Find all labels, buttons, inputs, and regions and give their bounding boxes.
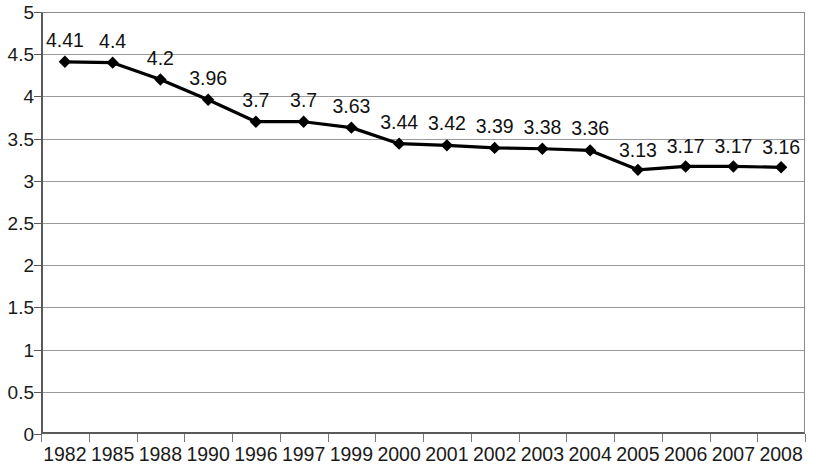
x-axis-tick-mark	[423, 434, 424, 442]
data-point-value-label: 3.17	[714, 137, 752, 157]
data-point-value-label: 4.41	[46, 30, 84, 50]
x-axis-tick-mark	[184, 434, 185, 442]
x-axis-category-label: 2003	[521, 445, 564, 465]
x-axis-tick-mark	[710, 434, 711, 442]
y-axis-tick-label: 0.5	[8, 382, 34, 401]
x-axis-tick-mark	[280, 434, 281, 442]
x-axis-category-label: 1985	[91, 445, 134, 465]
data-point-value-label: 3.42	[428, 114, 466, 134]
data-point-value-label: 3.96	[189, 68, 227, 88]
data-point-value-label: 3.63	[332, 96, 370, 116]
x-axis-tick-mark	[757, 434, 758, 442]
data-point-value-label: 3.38	[523, 117, 561, 137]
x-axis-tick-mark	[89, 434, 90, 442]
y-axis-tick-label: 0	[23, 425, 34, 444]
data-point-value-label: 4.2	[147, 48, 174, 68]
y-axis-tick-label: 1	[23, 340, 34, 359]
y-axis: 00.511.522.533.544.55	[0, 12, 34, 434]
data-point-value-label: 3.44	[380, 112, 418, 132]
y-axis-tick-mark	[34, 265, 41, 266]
x-axis-tick-mark	[614, 434, 615, 442]
data-point-value-label: 4.4	[99, 31, 126, 51]
plot-area	[41, 12, 805, 434]
y-axis-tick-mark	[34, 434, 41, 435]
x-axis-tick-mark	[375, 434, 376, 442]
data-point-value-label: 3.39	[476, 116, 514, 136]
y-axis-tick-label: 3.5	[8, 129, 34, 148]
x-axis-category-label: 1997	[282, 445, 325, 465]
y-axis-tick-mark	[34, 350, 41, 351]
y-axis-tick-label: 3	[23, 171, 34, 190]
x-axis-tick-mark	[328, 434, 329, 442]
y-axis-tick-mark	[34, 181, 41, 182]
data-point-value-label: 3.7	[290, 90, 317, 110]
x-axis-tick-mark	[519, 434, 520, 442]
y-axis-tick-mark	[34, 307, 41, 308]
x-axis-category-label: 1990	[186, 445, 229, 465]
x-axis-category-label: 2001	[425, 445, 468, 465]
data-point-value-label: 3.17	[667, 137, 705, 157]
y-axis-tick-label: 2.5	[8, 214, 34, 233]
gridline	[43, 96, 804, 97]
data-point-value-label: 3.16	[762, 138, 800, 158]
x-axis-category-label: 2007	[712, 445, 755, 465]
data-point-value-label: 3.13	[619, 140, 657, 160]
x-axis-tick-mark	[471, 434, 472, 442]
x-axis-category-label: 2006	[664, 445, 707, 465]
y-axis-tick-mark	[34, 96, 41, 97]
x-axis-category-label: 2002	[473, 445, 516, 465]
y-axis-tick-label: 5	[23, 3, 34, 22]
y-axis-tick-mark	[34, 139, 41, 140]
x-axis-category-label: 2005	[616, 445, 659, 465]
y-axis-tick-mark	[34, 54, 41, 55]
x-axis-category-label: 1996	[234, 445, 277, 465]
x-axis-category-label: 1982	[43, 445, 86, 465]
y-axis-tick-label: 4.5	[8, 45, 34, 64]
y-axis-tick-label: 1.5	[8, 298, 34, 317]
y-axis-tick-label: 2	[23, 256, 34, 275]
gridline	[43, 265, 804, 266]
x-axis-tick-mark	[662, 434, 663, 442]
gridline	[43, 307, 804, 308]
gridline	[43, 350, 804, 351]
gridline	[43, 392, 804, 393]
x-axis-category-label: 2004	[568, 445, 611, 465]
x-axis-tick-mark	[137, 434, 138, 442]
x-axis-tick-mark	[41, 434, 42, 442]
y-axis-tick-mark	[34, 12, 41, 13]
x-axis-category-label: 2008	[759, 445, 802, 465]
y-axis-tick-label: 4	[23, 87, 34, 106]
x-axis-category-label: 2000	[377, 445, 420, 465]
gridline	[43, 181, 804, 182]
y-axis-tick-mark	[34, 223, 41, 224]
x-axis-category-label: 1988	[139, 445, 182, 465]
y-axis-tick-mark	[34, 392, 41, 393]
x-axis-category-label: 1999	[330, 445, 373, 465]
x-axis-tick-mark	[805, 434, 806, 442]
x-axis-tick-mark	[232, 434, 233, 442]
line-chart: 00.511.522.533.544.55 198219851988199019…	[0, 0, 820, 473]
data-point-value-label: 3.7	[242, 90, 269, 110]
x-axis-tick-mark	[566, 434, 567, 442]
data-point-value-label: 3.36	[571, 119, 609, 139]
gridline	[43, 223, 804, 224]
